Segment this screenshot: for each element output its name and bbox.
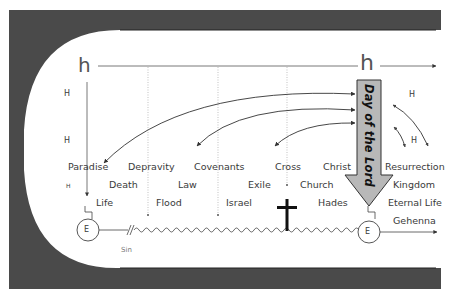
label-paradise: Paradise xyxy=(68,162,108,172)
label-gehenna: Gehenna xyxy=(393,216,436,226)
label-kingdom: Kingdom xyxy=(393,180,435,190)
label-christ: Christ xyxy=(323,162,351,172)
label-israel: Israel xyxy=(226,198,252,208)
wavy-timeline xyxy=(134,228,359,232)
diagram-graphics xyxy=(0,0,451,299)
top-left-h-marker: h xyxy=(78,55,91,75)
day-of-the-lord-label: Day of the Lord xyxy=(362,84,376,204)
right-label-2: H xyxy=(411,137,417,145)
label-eternal-life: Eternal Life xyxy=(388,198,442,208)
right-label-1: H xyxy=(409,91,415,99)
label-death: Death xyxy=(109,180,138,190)
label-depravity: Depravity xyxy=(128,162,175,172)
label-covenants: Covenants xyxy=(194,162,244,172)
label-flood: Flood xyxy=(156,198,182,208)
redemptive-history-diagram: h h H H H H H Day of the Lord Paradise D… xyxy=(0,0,451,299)
label-life: Life xyxy=(96,198,113,208)
curved-arrow-1 xyxy=(104,93,355,163)
left-event-node-label: E xyxy=(84,226,89,234)
left-axis-label-3: H xyxy=(66,183,71,189)
label-sin: Sin xyxy=(121,247,132,254)
label-cross: Cross xyxy=(275,162,301,172)
right-curved-arrow-2 xyxy=(394,127,405,147)
label-hades: Hades xyxy=(318,198,348,208)
label-resurrection: Resurrection xyxy=(385,162,445,172)
top-right-h-marker: h xyxy=(360,52,374,74)
right-event-node-label: E xyxy=(365,228,370,236)
label-exile: Exile xyxy=(248,180,271,190)
curved-arrow-2 xyxy=(197,109,355,146)
label-law: Law xyxy=(178,180,197,190)
left-axis-label-1: H xyxy=(64,90,70,98)
label-church: Church xyxy=(300,180,334,190)
cross-icon xyxy=(277,199,297,231)
left-axis-label-2: H xyxy=(64,137,70,145)
